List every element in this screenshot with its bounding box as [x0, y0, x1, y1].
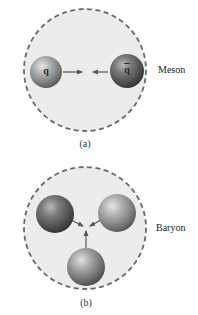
- hadron-diagram: [0, 0, 198, 315]
- quark-sphere-bottom: [67, 248, 105, 286]
- quark-sphere-top-left: [36, 195, 74, 233]
- baryon-panel: [24, 167, 146, 289]
- quark-label: q: [38, 66, 54, 76]
- quark-sphere-top-right: [98, 194, 136, 232]
- panel-label-b: (b): [71, 297, 101, 308]
- meson-label: Meson: [158, 64, 185, 75]
- panel-label-a: (a): [70, 138, 100, 149]
- baryon-label: Baryon: [156, 222, 185, 233]
- antiquark-label: q: [119, 65, 135, 75]
